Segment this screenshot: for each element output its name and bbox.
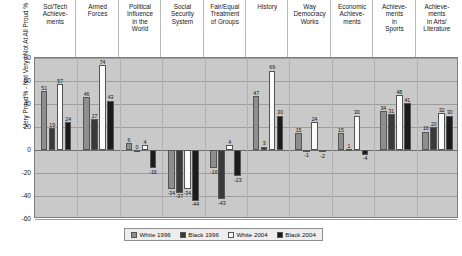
bar — [388, 114, 395, 150]
legend-item[interactable]: Black 2004 — [277, 231, 316, 238]
legend-swatch-icon — [131, 232, 137, 238]
category-header: Achieve-mentsin Arts/Literature — [416, 0, 458, 56]
bar-value-label: 24 — [309, 116, 321, 122]
bar — [168, 150, 175, 189]
bar-group: 4736930 — [247, 58, 289, 217]
bar-value-label: -23 — [232, 177, 244, 183]
category-header-line: Achieve- — [331, 10, 373, 17]
legend-label: White 1996 — [140, 231, 171, 238]
category-header-line: Economic — [331, 3, 373, 10]
bar-group: 51195724 — [35, 58, 77, 217]
category-header-line: Political — [119, 3, 161, 10]
gridline — [35, 219, 457, 220]
bar-group: 604-16 — [120, 58, 162, 217]
category-header-line: Sci/Tech — [34, 3, 76, 10]
bar — [438, 113, 445, 150]
bar-group: -16-434-23 — [205, 58, 247, 217]
bar — [234, 150, 241, 176]
bar-value-label: -2 — [317, 153, 329, 159]
legend-label: Black 1996 — [188, 231, 219, 238]
category-header-line: in — [373, 18, 415, 25]
bar — [311, 122, 318, 150]
bar-value-label: -16 — [147, 169, 159, 175]
category-header-line: Social — [161, 3, 203, 10]
legend-item[interactable]: White 1996 — [131, 231, 171, 238]
bar-value-label: 4 — [224, 139, 236, 145]
bar-value-label: 51 — [38, 85, 50, 91]
category-header-line: World — [119, 25, 161, 32]
bar-value-label: 6 — [123, 137, 135, 143]
bar — [91, 119, 98, 150]
bar — [404, 103, 411, 150]
bar-group: 15130-4 — [332, 58, 374, 217]
category-header-line: Armed — [76, 3, 118, 10]
legend-item[interactable]: Black 1996 — [180, 231, 219, 238]
category-header-line: in Arts/ — [416, 18, 458, 25]
category-header-line: ments — [373, 10, 415, 17]
category-header-line: Fair/Equal — [204, 3, 246, 10]
legend-item[interactable]: White 2004 — [228, 231, 268, 238]
chart-container: Sci/TechAchieve-mentsArmedForcesPolitica… — [0, 0, 462, 256]
bar-value-label: 41 — [402, 97, 414, 103]
category-header-line: of Groups — [204, 18, 246, 25]
chart-legend: White 1996Black 1996White 2004Black 2004 — [124, 228, 323, 241]
bar-value-label: -1 — [301, 152, 313, 158]
bar — [134, 150, 141, 152]
bar — [210, 150, 217, 168]
bar — [150, 150, 157, 168]
plot-area: 5119572446277443604-16-34-37-34-44-16-43… — [34, 57, 458, 218]
category-header: PoliticalInfluencein theWorld — [119, 0, 161, 56]
category-header-line: Security — [161, 10, 203, 17]
category-header-line: in the — [119, 18, 161, 25]
bar — [99, 65, 106, 150]
category-header-line: System — [161, 18, 203, 25]
category-header-line: History — [246, 3, 288, 10]
category-header-line: Achieve- — [34, 10, 76, 17]
category-header-line: Sports — [373, 25, 415, 32]
bar-value-label: 30 — [274, 109, 286, 115]
y-axis-tick-label: -60 — [21, 215, 31, 222]
category-header: EconomicAchieve-ments — [331, 0, 373, 56]
category-header: ArmedForces — [76, 0, 118, 56]
bar-group: 15-124-2 — [289, 58, 331, 217]
bar-value-label: 46 — [81, 91, 93, 97]
bar-value-label: 15 — [293, 127, 305, 133]
category-header-line: Treatment — [204, 10, 246, 17]
category-header: Achieve-mentsinSports — [373, 0, 415, 56]
bar-group: 16203230 — [417, 58, 459, 217]
bar-value-label: 30 — [444, 109, 456, 115]
bar — [446, 116, 453, 151]
legend-label: Black 2004 — [285, 231, 316, 238]
bar-value-label: 30 — [351, 109, 363, 115]
y-axis-tick-label: -40 — [21, 192, 31, 199]
bar — [396, 95, 403, 150]
bar — [277, 116, 284, 151]
bar — [226, 145, 233, 150]
category-header: SocialSecuritySystem — [161, 0, 203, 56]
bar — [422, 132, 429, 150]
legend-swatch-icon — [277, 232, 283, 238]
bar — [218, 150, 225, 199]
category-header-line: Way — [288, 3, 330, 10]
bar — [192, 150, 199, 201]
bar — [295, 133, 302, 150]
bar-value-label: 74 — [97, 59, 109, 65]
category-header-line: ments — [331, 18, 373, 25]
y-axis: 806040200-20-40-60 — [0, 57, 34, 218]
bar-value-label: 24 — [62, 116, 74, 122]
bar — [107, 101, 114, 150]
bar-value-label: -43 — [216, 200, 228, 206]
bar-group: 46277443 — [77, 58, 119, 217]
bar — [261, 147, 268, 150]
category-header-line: ments — [34, 18, 76, 25]
bar-value-label: 4 — [139, 139, 151, 145]
bar — [176, 150, 183, 193]
bar — [83, 97, 90, 150]
legend-swatch-icon — [228, 232, 234, 238]
bar — [41, 91, 48, 150]
y-axis-title: Very Proud% - Not Very / Not At All Prou… — [22, 0, 29, 151]
bar-value-label: -44 — [190, 201, 202, 207]
category-header-line: Achieve- — [416, 3, 458, 10]
category-header: Sci/TechAchieve-ments — [34, 0, 76, 56]
bar — [65, 122, 72, 150]
